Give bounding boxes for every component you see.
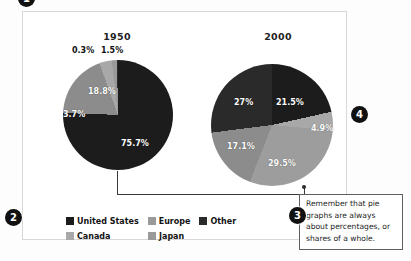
chart-legend: United States Europe Other Canada	[66, 215, 236, 242]
slice-label-2000-canada: 17.1%	[227, 142, 255, 151]
legend-item-canada[interactable]: Canada	[66, 232, 139, 241]
leader-line-segment-2	[117, 194, 305, 195]
legend-label-other: Other	[210, 217, 236, 226]
legend-swatch-canada	[66, 232, 74, 240]
legend-swatch-europe	[148, 217, 156, 225]
legend-swatch-other	[199, 217, 207, 225]
slice-label-1950-japan: 1.5%	[101, 46, 123, 55]
slice-label-2000-united-states: 21.5%	[276, 98, 304, 107]
legend-label-canada: Canada	[77, 232, 111, 241]
callout-box: Remember that pie graphs are always abou…	[299, 194, 403, 250]
legend-item-europe[interactable]: Europe	[148, 217, 191, 226]
annotation-marker-3[interactable]: 3	[289, 207, 306, 224]
slide-canvas: 1950 2000 0.3% 1.5% 18.8% 3.7% 75.7% 27%…	[0, 0, 411, 261]
chart-title-1950: 1950	[87, 31, 147, 42]
legend-label-japan: Japan	[159, 232, 184, 241]
leader-anchor-dot	[302, 185, 306, 189]
legend-swatch-japan	[148, 232, 156, 240]
annotation-marker-4[interactable]: 4	[351, 106, 368, 123]
legend-item-other[interactable]: Other	[199, 217, 236, 226]
slice-label-2000-japan: 29.5%	[268, 159, 296, 168]
legend-label-europe: Europe	[159, 217, 191, 226]
legend-row-top: United States Europe Other	[66, 215, 236, 227]
slice-label-1950-canada: 3.7%	[63, 110, 85, 119]
slice-label-1950-europe: 18.8%	[88, 87, 116, 96]
annotation-marker-1[interactable]: 1	[18, 0, 35, 7]
legend-item-united-states[interactable]: United States	[66, 217, 139, 226]
callout-text: Remember that pie graphs are always abou…	[306, 198, 398, 244]
legend-row-bottom: Canada Japan	[66, 230, 236, 242]
annotation-marker-2[interactable]: 2	[5, 209, 22, 226]
legend-label-united-states: United States	[77, 217, 139, 226]
slice-label-1950-united-states: 75.7%	[121, 139, 149, 148]
chart-title-2000: 2000	[248, 31, 308, 42]
legend-item-japan[interactable]: Japan	[148, 232, 208, 241]
slice-label-1950-other: 0.3%	[72, 46, 94, 55]
leader-line-segment-1	[117, 171, 118, 194]
slice-label-2000-europe: 4.9%	[311, 124, 333, 133]
slice-label-2000-other: 27%	[234, 98, 253, 107]
legend-swatch-united-states	[66, 217, 74, 225]
